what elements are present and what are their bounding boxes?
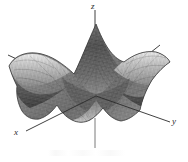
z-axis-label: z [91, 2, 95, 11]
x-axis-label: x [14, 128, 18, 137]
surface-plot-figure: x y z [0, 0, 188, 162]
y-axis-label: y [172, 117, 176, 126]
surface-plot-canvas [0, 0, 188, 162]
